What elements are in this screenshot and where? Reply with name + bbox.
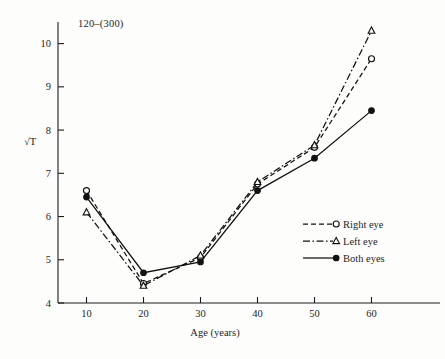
y-axis-title: √T xyxy=(24,136,37,147)
series-line xyxy=(87,59,372,284)
figure-container: 45678910102030405060√TAge (years)120–(30… xyxy=(0,0,445,359)
data-point-marker xyxy=(141,270,147,276)
data-point-marker xyxy=(368,27,375,33)
legend-label: Right eye xyxy=(343,219,384,230)
x-tick-label: 10 xyxy=(81,308,92,319)
plot-title: 120–(300) xyxy=(78,18,124,30)
legend-marker-sample xyxy=(333,221,339,227)
data-point-marker xyxy=(369,108,375,114)
legend-label: Left eye xyxy=(343,236,378,247)
line-chart: 45678910102030405060√TAge (years)120–(30… xyxy=(0,0,445,359)
y-tick-label: 10 xyxy=(41,38,52,49)
x-tick-label: 40 xyxy=(252,308,263,319)
legend-marker-sample xyxy=(333,237,340,243)
data-point-marker xyxy=(198,259,204,265)
y-tick-label: 9 xyxy=(46,81,51,92)
series-left-eye xyxy=(83,27,375,288)
x-tick-label: 30 xyxy=(195,308,206,319)
series-both-eyes xyxy=(84,108,375,276)
data-point-marker xyxy=(84,188,90,194)
legend-entry-right-eye[interactable]: Right eye xyxy=(303,219,384,230)
series-line xyxy=(87,111,372,273)
y-tick-label: 7 xyxy=(46,168,51,179)
data-point-marker xyxy=(369,56,375,62)
x-tick-label: 50 xyxy=(309,308,320,319)
y-tick-label: 4 xyxy=(46,298,52,309)
series-line xyxy=(87,31,372,286)
legend-entry-left-eye[interactable]: Left eye xyxy=(303,236,378,247)
y-tick-label: 5 xyxy=(46,254,51,265)
data-point-marker xyxy=(83,209,90,215)
y-tick-label: 8 xyxy=(46,125,51,136)
data-point-marker xyxy=(312,155,318,161)
x-axis-title: Age (years) xyxy=(190,327,240,339)
x-tick-label: 60 xyxy=(366,308,377,319)
x-tick-label: 20 xyxy=(138,308,149,319)
y-tick-label: 6 xyxy=(46,211,51,222)
data-point-marker xyxy=(255,188,261,194)
legend-entry-both-eyes[interactable]: Both eyes xyxy=(303,253,385,264)
legend-marker-sample xyxy=(333,255,339,261)
data-point-marker xyxy=(84,194,90,200)
legend-label: Both eyes xyxy=(343,253,385,264)
